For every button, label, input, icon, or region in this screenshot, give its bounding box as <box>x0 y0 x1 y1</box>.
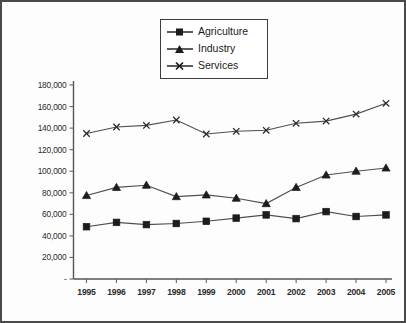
y-axis-tick-label: - <box>64 274 67 284</box>
x-axis-tick-label: 1996 <box>107 287 126 297</box>
x-axis: 1995199619971998199920002001200220032004… <box>74 279 396 297</box>
y-axis-tick-label: 140,000 <box>38 123 67 133</box>
x-axis-tick-label: 2000 <box>227 287 246 297</box>
legend-label-services: Services <box>198 60 238 71</box>
series-services <box>83 100 389 137</box>
legend-label-agriculture: Agriculture <box>198 26 248 37</box>
x-axis-tick-label: 2002 <box>287 287 306 297</box>
legend-item-services: Services <box>166 57 262 74</box>
y-axis-tick-label: 20,000 <box>42 252 67 262</box>
data-series-group <box>82 100 390 230</box>
y-axis: -20,00040,00060,00080,000100,000120,0001… <box>38 80 74 284</box>
x-axis-tick-label: 2003 <box>317 287 336 297</box>
legend-marker-x-icon <box>166 60 194 72</box>
y-axis-tick-label: 180,000 <box>38 80 67 90</box>
x-axis-tick-label: 2004 <box>347 287 366 297</box>
legend-marker-triangle-icon <box>166 43 194 55</box>
y-axis-tick-label: 120,000 <box>38 145 67 155</box>
y-axis-tick-label: 80,000 <box>42 188 67 198</box>
chart-container: -20,00040,00060,00080,000100,000120,0001… <box>0 0 406 323</box>
legend-marker-square-icon <box>166 26 194 38</box>
series-industry <box>82 164 390 207</box>
y-axis-tick-label: 160,000 <box>38 102 67 112</box>
x-axis-tick-label: 2005 <box>377 287 396 297</box>
series-agriculture <box>83 208 389 230</box>
legend-label-industry: Industry <box>198 43 235 54</box>
x-axis-tick-label: 2001 <box>257 287 276 297</box>
y-axis-tick-label: 40,000 <box>42 231 67 241</box>
x-axis-tick-label: 1999 <box>197 287 216 297</box>
legend-item-agriculture: Agriculture <box>166 23 262 40</box>
x-axis-tick-label: 1997 <box>137 287 156 297</box>
x-axis-tick-label: 1998 <box>167 287 186 297</box>
y-axis-tick-label: 60,000 <box>42 209 67 219</box>
chart-legend: Agriculture Industry Services <box>160 19 268 79</box>
legend-item-industry: Industry <box>166 40 262 57</box>
x-axis-tick-label: 1995 <box>77 287 96 297</box>
y-axis-tick-label: 100,000 <box>38 166 67 176</box>
